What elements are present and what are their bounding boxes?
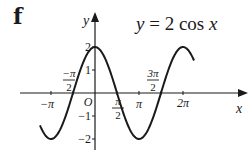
y-tick-label: −1 [78,109,91,123]
y-tick-label: −2 [78,132,91,146]
x-tick-label-half-pi-numerator: π [115,95,121,107]
x-tick-label-three-half-pi-numerator: 3π [146,67,159,79]
equation-label: y = 2 cos x [136,14,217,33]
x-tick-label-two-pi: 2π [177,96,190,110]
x-axis-label: x [235,101,243,116]
x-tick-label-pi: π [136,97,143,111]
y-tick-label: 2 [85,40,91,54]
part-label: f [13,5,22,27]
x-tick-label-neg-half-pi-denominator: 2 [66,81,72,93]
x-tick-label-three-half-pi-denominator: 2 [150,81,156,93]
x-tick-label-half-pi-denominator: 2 [115,109,121,121]
origin-label: O [84,95,93,109]
equation-body: = 2 cos [144,13,209,34]
figure-panel: −π−π2π2π3π22π21−1−2xyO f y = 2 cos x [0,0,249,151]
y-axis-label: y [81,13,90,28]
x-tick-label-neg-pi: −π [40,97,55,111]
y-tick-label: 1 [85,63,91,77]
equation-var-x: x [209,13,217,34]
x-tick-label-neg-half-pi-numerator: −π [63,67,76,79]
